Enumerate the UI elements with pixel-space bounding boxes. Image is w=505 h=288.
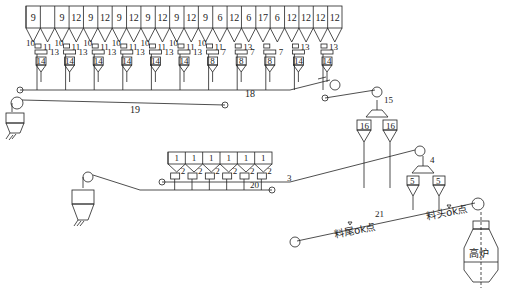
feeder-mid-label: 13 [50, 47, 60, 57]
furnace-label: 高炉 [469, 247, 489, 259]
top-bin-label: 17 [258, 12, 268, 23]
lower-feeder-label: 2 [181, 166, 186, 176]
top-bin-label: 9 [117, 12, 122, 23]
feeder-module: 1413 [292, 42, 310, 90]
lower-bin-label: 1 [244, 153, 249, 163]
hopper-5-right-label: 5 [436, 176, 441, 186]
hopper-label: 8 [239, 56, 244, 66]
top-bin-label: 12 [301, 12, 311, 23]
lower-bin-label: 1 [226, 153, 231, 163]
feeder-left-label: 10 [83, 38, 93, 48]
hopper-5-left-label: 5 [410, 176, 415, 186]
charging-flow-diagram: 99129129129129129612617612121212 1410111… [0, 0, 505, 288]
feeder-mid-label: 13 [164, 47, 174, 57]
hopper-label: 14 [151, 56, 161, 66]
label-20: 20 [250, 180, 260, 190]
feeder-left-label: 10 [140, 38, 150, 48]
hopper-label: 14 [122, 56, 132, 66]
top-bin-label: 9 [203, 12, 208, 23]
feeder-left-label: 10 [26, 38, 36, 48]
feeder-mid-label: 7 [279, 47, 284, 57]
lower-feeder-label: 2 [198, 166, 203, 176]
label-19: 19 [130, 104, 140, 115]
top-bin-row: 99129129129129129612617612121212 [26, 6, 342, 42]
label-4: 4 [430, 155, 435, 165]
top-bin-label: 9 [59, 12, 64, 23]
lower-bin-label: 1 [209, 153, 214, 163]
feeder-right-label: 13 [300, 42, 310, 52]
top-bin-label: 12 [71, 12, 81, 23]
top-bin-label: 12 [129, 12, 139, 23]
top-bin-label: 6 [246, 12, 251, 23]
lower-feeder-label: 2 [233, 166, 238, 176]
hopper-label: 14 [65, 56, 75, 66]
hopper-label: 8 [268, 56, 273, 66]
label-18: 18 [245, 88, 255, 99]
feeder-module: 87 [264, 44, 284, 90]
top-bin-label: 12 [330, 12, 340, 23]
top-bin-label: 9 [174, 12, 179, 23]
blast-furnace: 高炉 [464, 212, 498, 288]
top-bin-label: 6 [275, 12, 280, 23]
top-bin-label: 12 [229, 12, 239, 23]
lower-feeder-label: 2 [215, 166, 220, 176]
lower-bin-label: 1 [261, 153, 266, 163]
feeder-mid-label: 7 [250, 47, 255, 57]
hoppers-5: 4 5 5 [407, 155, 445, 210]
feeder-left-label: 10 [169, 38, 179, 48]
conveyor-20: 20 [83, 172, 275, 193]
hopper-label: 8 [210, 56, 215, 66]
top-bin-label: 9 [88, 12, 93, 23]
hopper-label: 14 [37, 56, 47, 66]
hopper-label: 14 [180, 56, 190, 66]
top-bin-label: 12 [315, 12, 325, 23]
feeder-left-label: 10 [112, 38, 122, 48]
hopper-16-left-label: 16 [360, 121, 370, 131]
hoppers-16: 16 16 [357, 100, 397, 188]
feeder-mid-label: 13 [193, 47, 203, 57]
top-bin-label: 6 [217, 12, 222, 23]
feeder-left-label: 10 [55, 38, 65, 48]
left-lower-hopper [72, 177, 94, 226]
label-15: 15 [384, 95, 394, 105]
feeder-module: 8137 [235, 42, 255, 90]
feeder-mid-label: 13 [79, 47, 89, 57]
top-bin-label: 12 [287, 12, 297, 23]
conveyor-19: 19 [11, 97, 228, 115]
feeder-mid-label: 13 [107, 47, 117, 57]
lower-feeder-label: 2 [250, 166, 255, 176]
top-bin-label: 12 [186, 12, 196, 23]
feeder-right-label: 13 [329, 42, 339, 52]
hopper-label: 14 [94, 56, 104, 66]
conveyor-21: 21 料尾ok点 料头ok点 [290, 198, 484, 247]
lower-feeder-label: 2 [267, 166, 272, 176]
lower-bin-label: 1 [174, 153, 179, 163]
label-3: 3 [287, 173, 292, 183]
feeder-left-label: 10 [198, 38, 208, 48]
top-bin-label: 9 [31, 12, 36, 23]
tail-ok-point-label: 料尾ok点 [333, 220, 376, 240]
top-feeder-modules: 1410111314101113141011131410111314101113… [26, 38, 339, 90]
hopper-label: 14 [323, 56, 333, 66]
feeder-module: 1413 [321, 42, 339, 90]
feeder-mid-label: 13 [136, 47, 146, 57]
top-bin-label: 12 [100, 12, 110, 23]
hopper-label: 14 [294, 56, 304, 66]
top-bin-label: 9 [146, 12, 151, 23]
feeder-mid-label: 7 [222, 47, 227, 57]
top-bin-label: 12 [157, 12, 167, 23]
feeder-module: 810117 [198, 38, 227, 90]
hopper-16-right-label: 16 [386, 121, 396, 131]
label-21: 21 [375, 209, 384, 219]
lower-bin-label: 1 [192, 153, 197, 163]
